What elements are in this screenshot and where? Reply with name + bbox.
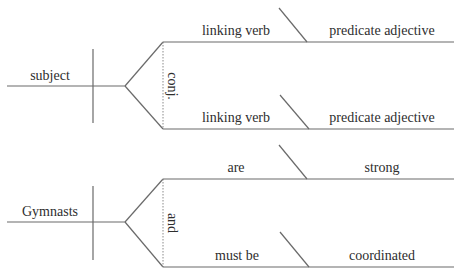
complement-label-2: coordinated [349,248,415,263]
verb-label-2: linking verb [202,110,270,125]
fork-lower [125,86,163,129]
diagram-example: Gymnasts and are strong must be coordina… [7,145,454,267]
subject-label: subject [30,68,70,83]
verb-label-1: linking verb [202,23,270,38]
verb-label-2: must be [215,248,259,263]
complement-slash-2 [280,232,309,267]
complement-label-1: predicate adjective [329,23,434,38]
fork-lower [125,222,163,267]
complement-slash-1 [279,8,307,42]
complement-slash-2 [280,95,309,129]
conjunction-label: and [165,213,180,233]
verb-label-1: are [227,160,244,175]
complement-label-1: strong [365,160,400,175]
complement-label-2: predicate adjective [329,110,434,125]
fork-upper [125,179,163,222]
sentence-diagrams: subject conj. linking verb predicate adj… [0,0,460,274]
diagram-template: subject conj. linking verb predicate adj… [7,8,454,129]
conjunction-label: conj. [165,72,180,100]
subject-label: Gymnasts [22,204,78,219]
complement-slash-1 [279,145,307,179]
fork-upper [125,42,163,86]
